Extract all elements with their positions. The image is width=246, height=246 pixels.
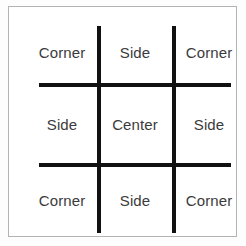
cell-label-bottom-left: Corner xyxy=(39,193,85,208)
cell-label-top-right: Corner xyxy=(186,45,232,60)
grid-line-vertical-left xyxy=(97,26,101,233)
cell-label-bottom-center: Side xyxy=(120,193,150,208)
cell-label-bottom-right: Corner xyxy=(186,193,232,208)
cell-label-top-center: Side xyxy=(120,45,150,60)
diagram-frame: Corner Side Corner Side Center Side Corn… xyxy=(8,6,237,237)
cell-label-top-left: Corner xyxy=(39,45,85,60)
cell-label-middle-center: Center xyxy=(112,117,158,132)
grid-line-vertical-right xyxy=(172,26,176,233)
grid-line-horizontal-top xyxy=(39,83,231,87)
cell-label-middle-right: Side xyxy=(194,117,224,132)
cell-label-middle-left: Side xyxy=(47,117,77,132)
grid-line-horizontal-bottom xyxy=(39,163,231,167)
tictactoe-position-diagram: Corner Side Corner Side Center Side Corn… xyxy=(0,0,246,246)
